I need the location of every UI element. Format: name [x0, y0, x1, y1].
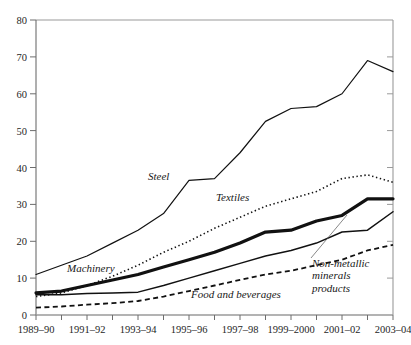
y-axis-tick-label: 30 [2, 199, 27, 210]
series-label-food-and-beverages: Food and beverages [191, 288, 281, 300]
series-label-textiles: Textiles [216, 191, 249, 203]
non-metallic-line-2: minerals [312, 269, 351, 281]
series-label-non-metallic-minerals-products: Non-metallic minerals products [312, 257, 386, 294]
x-axis-tick-label: 1995–96 [171, 324, 208, 335]
series-line-steel [36, 61, 393, 275]
non-metallic-line-3: products [312, 282, 350, 294]
y-axis-tick-label: 10 [2, 273, 27, 284]
y-axis-tick-label: 40 [2, 162, 27, 173]
x-axis-tick-label: 2003–04 [375, 324, 411, 335]
series-label-machinery: Machinery [67, 262, 115, 274]
x-axis-ticks [36, 315, 393, 320]
x-axis-tick-label: 1991–92 [69, 324, 106, 335]
non-metallic-line-1: Non-metallic [312, 257, 369, 269]
y-axis-tick-label: 70 [2, 51, 27, 62]
y-axis-tick-label: 80 [2, 15, 27, 26]
y-axis-tick-label: 20 [2, 236, 27, 247]
x-axis-tick-label: 1993–94 [120, 324, 157, 335]
y-axis-tick-label: 50 [2, 125, 27, 136]
x-axis-tick-label: 1999–2000 [267, 324, 314, 335]
y-axis-tick-label: 60 [2, 88, 27, 99]
y-axis-tick-label: 0 [2, 310, 27, 321]
x-axis-tick-label: 2001–02 [324, 324, 361, 335]
series-label-steel: Steel [148, 170, 169, 182]
y-axis-ticks [30, 20, 36, 315]
x-axis-tick-label: 1997–98 [222, 324, 259, 335]
x-axis-tick-label: 1989–90 [18, 324, 55, 335]
